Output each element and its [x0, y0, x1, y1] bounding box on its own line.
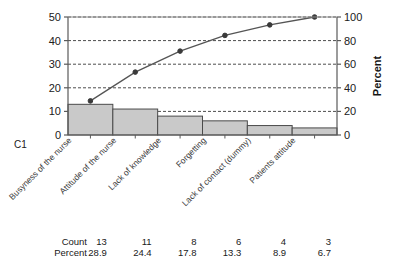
cumulative-line-series: [88, 15, 317, 103]
table-cell: 24.4: [133, 247, 152, 258]
line-marker: [223, 33, 228, 38]
table-cell: 6.7: [318, 247, 331, 258]
line-marker: [178, 49, 183, 54]
right-axis-tick-label-4: 80: [344, 35, 356, 47]
table-cell: 17.8: [178, 247, 197, 258]
right-axis-tick-label-1: 20: [344, 105, 356, 117]
bar: [247, 126, 292, 135]
bar: [113, 109, 158, 135]
category-label-3: Forgetting: [174, 135, 208, 169]
bar: [158, 116, 203, 135]
table-cell: 28.9: [88, 247, 107, 258]
table-cell: 8: [191, 236, 196, 247]
right-axis-tick-label-0: 0: [344, 129, 350, 141]
bar: [203, 121, 248, 135]
right-axis-title: Percent: [371, 55, 383, 96]
right-axis-tick-label-2: 40: [344, 82, 356, 94]
chart-canvas: 01020304050020406080100PercentC1Busyness…: [0, 0, 398, 273]
right-axis-tick-label-3: 60: [344, 58, 356, 70]
gridlines: [68, 17, 337, 111]
line-marker: [267, 23, 272, 28]
table-cell: 6: [236, 236, 241, 247]
left-axis-tick-label-1: 10: [49, 105, 61, 117]
table-cell: 13: [96, 236, 107, 247]
group-label-c1: C1: [14, 139, 27, 150]
left-axis-tick-label-2: 20: [49, 82, 61, 94]
bar: [68, 104, 113, 135]
data-table: Count13118643Percent28.924.417.813.38.96…: [54, 236, 331, 258]
table-cell: 3: [326, 236, 331, 247]
cumulative-line: [90, 17, 314, 101]
left-axis-tick-label-0: 0: [55, 129, 61, 141]
table-cell: 11: [142, 236, 152, 247]
right-axis-tick-label-5: 100: [344, 11, 362, 23]
line-marker: [133, 70, 138, 75]
pareto-chart: 01020304050020406080100PercentC1Busyness…: [0, 0, 398, 273]
left-axis-tick-label-3: 30: [49, 58, 61, 70]
table-cell: 13.3: [223, 247, 242, 258]
bar-series: [68, 104, 337, 135]
bar: [292, 128, 337, 135]
table-row-label-0: Count: [62, 236, 88, 247]
left-axis-tick-label-4: 40: [49, 35, 61, 47]
table-cell: 8.9: [273, 247, 286, 258]
table-row-label-1: Percent: [54, 247, 87, 258]
line-marker: [88, 99, 93, 104]
category-label-5: Patients attitude: [247, 135, 297, 185]
table-cell: 4: [281, 236, 286, 247]
left-axis-tick-label-5: 50: [49, 11, 61, 23]
